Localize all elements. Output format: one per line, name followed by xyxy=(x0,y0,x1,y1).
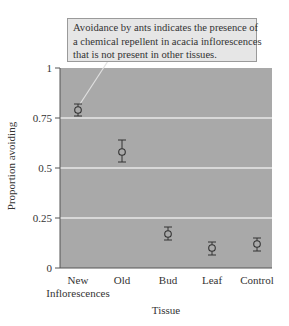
y-tick-label: 1 xyxy=(47,62,53,74)
y-tick-label: 0 xyxy=(47,262,53,274)
x-tick-label: Control xyxy=(240,274,274,286)
y-tick-label: 0.75 xyxy=(33,112,53,124)
marker-circle xyxy=(119,149,126,156)
y-axis-ticks: 00.250.50.751 xyxy=(33,62,60,274)
x-tick-label: New xyxy=(68,274,89,286)
marker-circle xyxy=(165,231,172,238)
x-tick-label: Bud xyxy=(159,274,178,286)
y-tick-label: 0.5 xyxy=(38,162,52,174)
marker-circle xyxy=(209,245,216,252)
x-tick-label: Old xyxy=(114,274,131,286)
annotation-line-1: Avoidance by ants indicates the presence… xyxy=(73,21,251,35)
marker-circle xyxy=(254,241,261,248)
y-tick-label: 0.25 xyxy=(33,212,53,224)
marker-circle xyxy=(75,107,82,114)
x-axis-labels: NewInflorescencesOldBudLeafControl xyxy=(46,274,274,299)
x-axis-title: Tissue xyxy=(60,304,272,316)
y-axis-title: Proportion avoiding xyxy=(5,111,17,221)
annotation-line-3: that is not present in other tissues. xyxy=(73,48,251,62)
annotation-line-2: a chemical repellent in acacia infloresc… xyxy=(73,35,251,49)
x-tick-label: Leaf xyxy=(202,274,222,286)
annotation-callout: Avoidance by ants indicates the presence… xyxy=(67,18,257,62)
x-tick-label: Inflorescences xyxy=(46,287,110,299)
